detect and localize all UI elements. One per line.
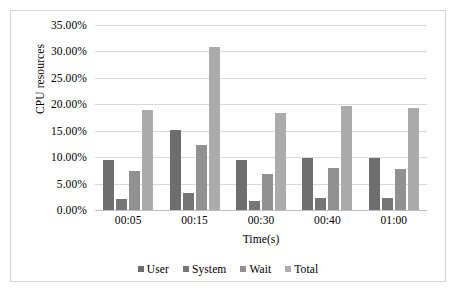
bar-wait[interactable] xyxy=(328,168,339,210)
plot-area xyxy=(95,25,427,210)
bar-wait[interactable] xyxy=(129,171,140,210)
bar-user[interactable] xyxy=(302,158,313,210)
gridline xyxy=(95,210,427,211)
x-axis-tick-labels: 00:0500:1500:3000:4001:00 xyxy=(95,214,427,230)
y-axis-tick-label: 30.00% xyxy=(51,45,87,57)
y-axis-tick-label: 15.00% xyxy=(51,125,87,137)
bar-total[interactable] xyxy=(341,106,352,210)
y-axis-tick-label: 0.00% xyxy=(57,204,87,216)
legend-swatch-icon xyxy=(138,266,144,272)
y-axis-tick-label: 25.00% xyxy=(51,72,87,84)
bar-total[interactable] xyxy=(275,113,286,210)
y-axis-tick-label: 5.00% xyxy=(57,178,87,190)
legend-item-user[interactable]: User xyxy=(138,263,169,275)
legend-item-system[interactable]: System xyxy=(183,263,226,275)
bar-wait[interactable] xyxy=(262,174,273,210)
bar-total[interactable] xyxy=(209,47,220,210)
bar-system[interactable] xyxy=(116,199,127,210)
legend-label: Wait xyxy=(249,263,271,275)
bar-user[interactable] xyxy=(170,130,181,210)
legend-swatch-icon xyxy=(285,266,291,272)
bar-user[interactable] xyxy=(103,160,114,210)
x-axis-tick-label: 00:40 xyxy=(294,214,360,226)
bar-total[interactable] xyxy=(142,110,153,210)
legend-label: Total xyxy=(294,263,318,275)
legend-swatch-icon xyxy=(183,266,189,272)
y-axis-tick-label: 35.00% xyxy=(51,19,87,31)
bar-group xyxy=(294,25,360,210)
x-axis-tick-label: 00:15 xyxy=(161,214,227,226)
bar-system[interactable] xyxy=(382,198,393,210)
legend-label: System xyxy=(192,263,226,275)
bar-system[interactable] xyxy=(183,193,194,210)
y-axis-tick-label: 20.00% xyxy=(51,98,87,110)
bar-group xyxy=(161,25,227,210)
bar-user[interactable] xyxy=(369,158,380,210)
legend-item-wait[interactable]: Wait xyxy=(240,263,271,275)
bar-user[interactable] xyxy=(236,160,247,210)
bar-series-layer xyxy=(95,25,427,210)
x-axis-tick-label: 01:00 xyxy=(361,214,427,226)
y-axis-tick-label: 10.00% xyxy=(51,151,87,163)
legend-label: User xyxy=(147,263,169,275)
bar-group xyxy=(228,25,294,210)
bar-system[interactable] xyxy=(315,198,326,210)
x-axis-tick-label: 00:30 xyxy=(228,214,294,226)
legend-swatch-icon xyxy=(240,266,246,272)
legend-item-total[interactable]: Total xyxy=(285,263,318,275)
bar-group xyxy=(361,25,427,210)
bar-system[interactable] xyxy=(249,201,260,211)
bar-wait[interactable] xyxy=(196,145,207,210)
y-axis-tick-labels: 35.00%30.00%25.00%20.00%15.00%10.00%5.00… xyxy=(29,25,91,210)
chart-legend: UserSystemWaitTotal xyxy=(11,263,445,275)
x-axis-title: Time(s) xyxy=(95,233,427,245)
chart-container: CPU resources 35.00%30.00%25.00%20.00%15… xyxy=(10,10,446,282)
bar-wait[interactable] xyxy=(395,169,406,210)
x-axis-tick-label: 00:05 xyxy=(95,214,161,226)
bar-group xyxy=(95,25,161,210)
bar-total[interactable] xyxy=(408,108,419,210)
